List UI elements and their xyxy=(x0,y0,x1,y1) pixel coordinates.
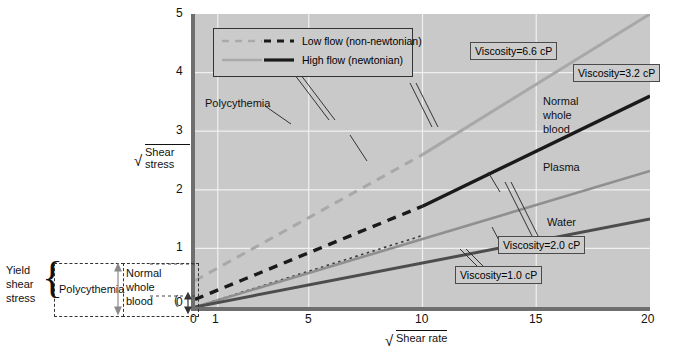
sqrt-symbol-y-icon: √ xyxy=(134,152,142,169)
yield-label-nwb-line3: blood xyxy=(126,295,153,308)
y-tick-4: 4 xyxy=(176,64,183,78)
y-tick-5: 5 xyxy=(176,6,183,20)
y-tick-1: 1 xyxy=(176,240,183,254)
annotation-plasma: Plasma xyxy=(543,161,580,174)
y-axis-title-line2: stress xyxy=(145,158,190,170)
y-axis-title: √ Shear stress xyxy=(134,144,190,170)
legend: Low flow (non-newtonian) High flow (newt… xyxy=(213,28,413,77)
yield-cell-polycythemia: Polycythemia xyxy=(54,263,124,317)
yield-title-line2: shear xyxy=(6,278,34,291)
leader-visc-32-b xyxy=(416,83,438,127)
sqrt-symbol-x-icon: √ xyxy=(385,332,393,349)
annotation-viscosity-3-2: Viscosity=3.2 cP xyxy=(573,64,660,82)
annotation-polycythemia: Polycythemia xyxy=(205,97,270,110)
annotation-normal-whole-blood-line2: whole xyxy=(543,109,572,122)
annotation-water: Water xyxy=(547,216,576,229)
yield-label-polycythemia: Polycythemia xyxy=(59,283,124,296)
x-tick-15: 15 xyxy=(529,312,542,326)
x-axis-title: √ Shear rate xyxy=(385,330,447,344)
x-axis-line xyxy=(191,307,650,311)
annotation-normal-whole-blood-line1: Normal xyxy=(543,95,578,108)
annotation-viscosity-1-0: Viscosity=1.0 cP xyxy=(455,266,542,284)
annotation-normal-whole-blood-line3: blood xyxy=(543,123,570,136)
leader-normal-whole-blood xyxy=(350,135,367,161)
legend-label-high-flow: High flow (newtonian) xyxy=(302,54,403,66)
x-axis-title-text: Shear rate xyxy=(396,332,447,344)
x-tick-5: 5 xyxy=(305,312,312,326)
y-axis-title-line1: Shear xyxy=(145,146,190,158)
legend-label-low-flow: Low flow (non-newtonian) xyxy=(302,35,422,47)
x-tick-1: 1 xyxy=(212,312,219,326)
plot-area: Low flow (non-newtonian) High flow (newt… xyxy=(195,14,650,307)
yield-connector-dashes xyxy=(150,258,200,308)
annotation-viscosity-6-6: Viscosity=6.6 cP xyxy=(470,42,557,60)
annotation-viscosity-2-0: Viscosity=2.0 cP xyxy=(498,236,585,254)
leader-visc-32-a xyxy=(410,83,432,127)
x-tick-20: 20 xyxy=(641,312,654,326)
y-tick-2: 2 xyxy=(176,182,183,196)
yield-title-line1: Yield xyxy=(6,264,30,277)
yield-title-line3: stress xyxy=(6,292,35,305)
y-tick-3: 3 xyxy=(176,123,183,137)
x-tick-10: 10 xyxy=(415,312,428,326)
chart-root: Low flow (non-newtonian) High flow (newt… xyxy=(0,0,673,357)
leader-plasma xyxy=(488,172,500,192)
